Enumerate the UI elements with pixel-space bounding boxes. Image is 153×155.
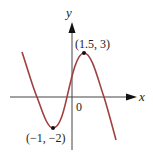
function-curve [22, 52, 116, 140]
y-axis-arrow-icon [69, 22, 76, 33]
origin-label: 0 [76, 100, 82, 114]
min-point-label: (−1, −2) [26, 131, 66, 145]
max-point-label: (1.5, 3) [75, 37, 110, 51]
y-axis-label: y [64, 5, 72, 20]
x-axis-label: x [138, 89, 145, 104]
local-min-point [51, 126, 55, 130]
function-graph: y x 0 (1.5, 3) (−1, −2) [0, 0, 153, 155]
local-max-point [82, 51, 86, 55]
x-axis-arrow-icon [126, 94, 137, 101]
